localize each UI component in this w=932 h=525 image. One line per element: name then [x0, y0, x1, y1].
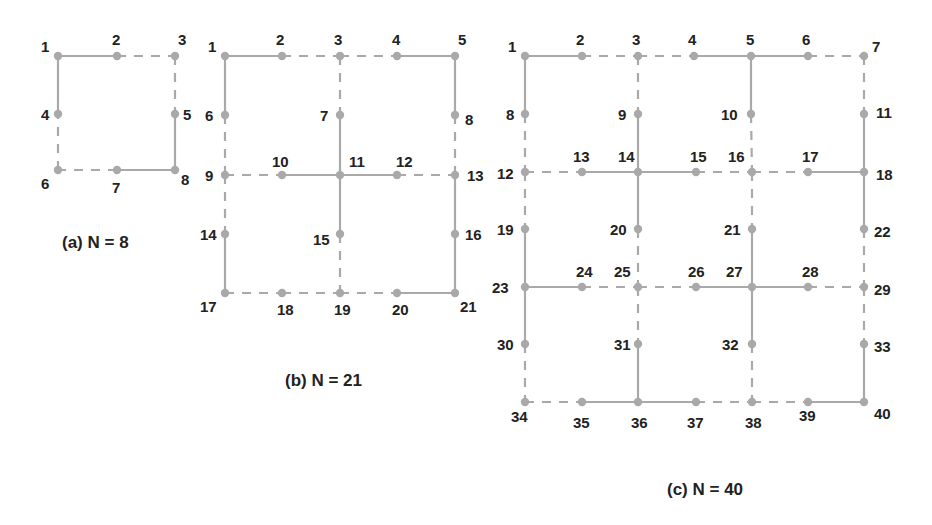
node-label-22: 22	[874, 223, 891, 240]
node-5	[747, 52, 755, 60]
node-label-37: 37	[687, 414, 704, 431]
node-label-7: 7	[320, 107, 328, 124]
figure-b: 123456789101112131415161718192021	[200, 31, 484, 318]
node-label-17: 17	[802, 148, 819, 165]
node-label-11: 11	[876, 104, 892, 121]
node-7	[860, 52, 868, 60]
node-label-5: 5	[183, 106, 191, 123]
node-1	[54, 52, 62, 60]
node-15	[336, 230, 344, 238]
node-label-8: 8	[465, 111, 473, 128]
node-28	[804, 283, 812, 291]
node-label-17: 17	[200, 298, 217, 315]
node-label-9: 9	[618, 106, 626, 123]
node-11	[336, 171, 344, 179]
node-label-24: 24	[576, 263, 593, 280]
node-label-35: 35	[573, 414, 590, 431]
node-label-8: 8	[506, 106, 514, 123]
node-16	[451, 230, 459, 238]
node-5	[451, 52, 459, 60]
node-label-1: 1	[208, 38, 216, 55]
node-label-36: 36	[631, 414, 648, 431]
node-18	[278, 289, 286, 297]
node-12	[521, 168, 529, 176]
node-32	[748, 340, 756, 348]
node-label-3: 3	[632, 31, 640, 48]
node-17	[221, 289, 229, 297]
node-label-4: 4	[688, 31, 697, 48]
node-25	[634, 283, 642, 291]
node-35	[578, 398, 586, 406]
node-24	[578, 283, 586, 291]
node-10	[747, 110, 755, 118]
node-label-13: 13	[573, 148, 590, 165]
node-label-12: 12	[497, 165, 514, 182]
node-3	[336, 52, 344, 60]
node-label-10: 10	[721, 106, 738, 123]
node-2	[578, 52, 586, 60]
node-label-3: 3	[178, 31, 186, 48]
node-label-6: 6	[205, 107, 213, 124]
node-label-14: 14	[618, 148, 635, 165]
node-7	[113, 166, 121, 174]
node-31	[634, 340, 642, 348]
node-29	[860, 283, 868, 291]
node-label-11: 11	[349, 153, 365, 170]
node-30	[521, 340, 529, 348]
node-8	[521, 110, 529, 118]
node-label-21: 21	[724, 221, 741, 238]
node-label-39: 39	[799, 407, 816, 424]
node-15	[692, 168, 700, 176]
node-label-5: 5	[458, 31, 466, 48]
node-label-29: 29	[874, 281, 891, 298]
node-label-33: 33	[874, 338, 891, 355]
node-9	[221, 171, 229, 179]
node-label-16: 16	[728, 148, 745, 165]
node-label-4: 4	[41, 106, 50, 123]
node-20	[634, 225, 642, 233]
node-4	[393, 52, 401, 60]
node-21	[451, 289, 459, 297]
node-17	[804, 168, 812, 176]
node-label-27: 27	[726, 263, 743, 280]
node-label-2: 2	[112, 31, 120, 48]
node-label-4: 4	[392, 31, 401, 48]
node-13	[578, 168, 586, 176]
node-1	[521, 52, 529, 60]
node-33	[860, 340, 868, 348]
node-2	[278, 52, 286, 60]
node-4	[54, 110, 62, 118]
node-3	[171, 52, 179, 60]
node-label-25: 25	[614, 263, 631, 280]
node-label-30: 30	[497, 336, 514, 353]
node-1	[221, 52, 229, 60]
node-39	[804, 398, 812, 406]
node-label-10: 10	[272, 153, 289, 170]
node-40	[860, 398, 868, 406]
network-topology-diagrams: 12345678 1234567891011121314151617181920…	[0, 0, 932, 525]
node-label-7: 7	[112, 179, 120, 196]
node-6	[804, 52, 812, 60]
node-34	[521, 398, 529, 406]
node-5	[171, 110, 179, 118]
node-14	[634, 168, 642, 176]
node-37	[692, 398, 700, 406]
node-12	[393, 171, 401, 179]
node-label-2: 2	[276, 31, 284, 48]
node-label-20: 20	[392, 301, 409, 318]
node-label-23: 23	[492, 279, 509, 296]
node-19	[521, 225, 529, 233]
node-label-20: 20	[610, 221, 627, 238]
node-label-19: 19	[497, 221, 514, 238]
node-23	[521, 283, 529, 291]
node-label-15: 15	[690, 148, 707, 165]
node-13	[451, 171, 459, 179]
node-label-26: 26	[688, 263, 705, 280]
node-label-1: 1	[41, 38, 49, 55]
node-6	[54, 166, 62, 174]
node-6	[221, 111, 229, 119]
node-9	[634, 110, 642, 118]
node-4	[690, 52, 698, 60]
node-label-6: 6	[802, 31, 810, 48]
caption-c: (c) N = 40	[667, 480, 743, 499]
